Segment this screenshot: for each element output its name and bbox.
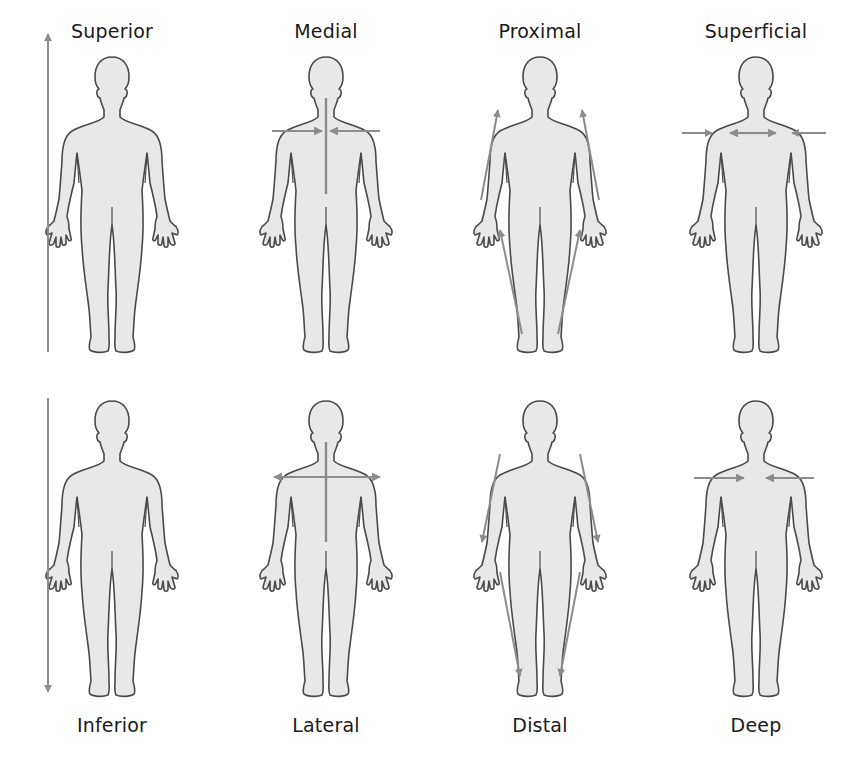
figure-superficial [682,57,826,352]
diagram-canvas [0,0,861,762]
figure-lateral [260,401,392,696]
figure-distal [474,401,606,696]
figure-superior [46,34,178,352]
figure-deep [690,401,822,696]
figure-inferior [46,398,178,696]
figure-medial [260,57,392,352]
figure-proximal [474,57,606,352]
